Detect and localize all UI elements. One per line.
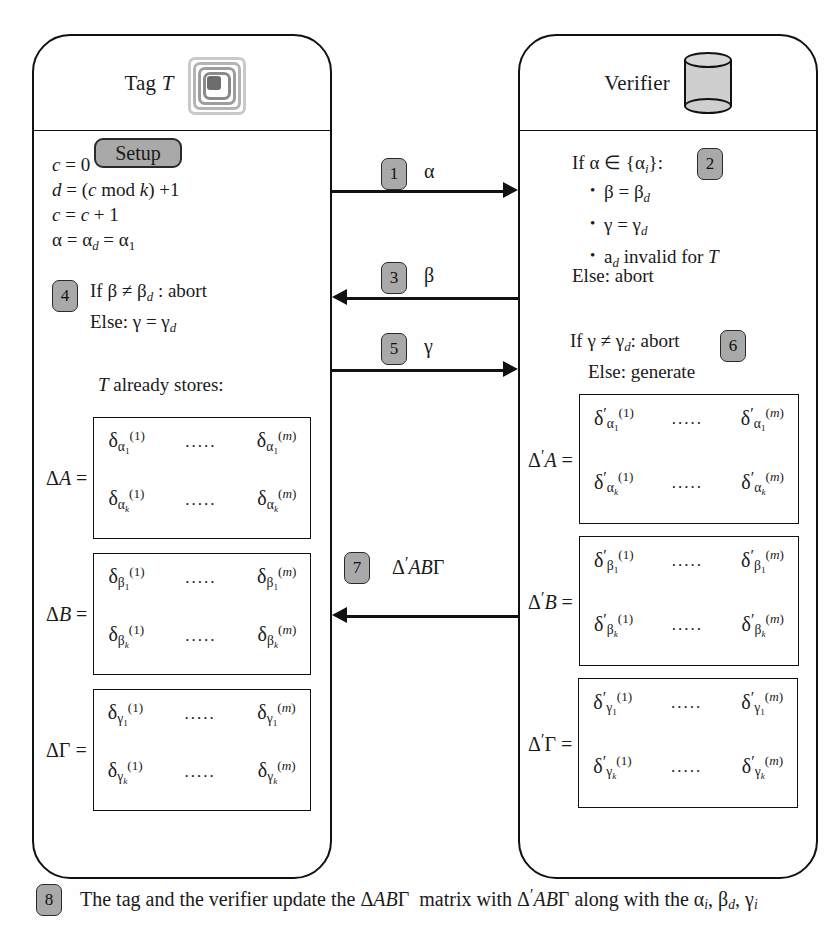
tag-panel-title-text: Tag xyxy=(124,71,156,95)
step-2-badge[interactable]: 2 xyxy=(697,148,723,180)
tag-stores-note: T already stores: xyxy=(98,372,224,397)
equation-c-increment: c = c + 1 xyxy=(52,202,180,227)
step-6-line-2: Else: generate xyxy=(570,359,695,384)
matrix-cell: δ′α1(m) xyxy=(741,405,784,433)
verifier-panel: Verifier If α ∈ {αi}: 2 β = βd γ = γd ad… xyxy=(518,34,818,879)
matrix-cell: δ′βk(1) xyxy=(594,611,633,639)
message-1-label: α xyxy=(424,160,434,183)
matrix-cell: δαk(m) xyxy=(257,486,296,514)
matrix-cell: δ′β1(m) xyxy=(741,547,784,575)
cylinder-bottom xyxy=(684,98,732,114)
message-3-arrowhead xyxy=(332,289,347,305)
cylinder-top xyxy=(684,52,732,68)
matrix-cell: δαk(1) xyxy=(108,486,144,514)
matrix-dots: ..... xyxy=(672,409,703,429)
matrix-cell: δβ1(m) xyxy=(257,564,296,592)
message-1-line xyxy=(332,190,504,193)
step-4-badge[interactable]: 4 xyxy=(52,280,78,312)
message-3-line xyxy=(345,297,518,300)
matrix-delta-b-label: ΔB = xyxy=(46,603,87,626)
matrix-cell: δ′αk(1) xyxy=(594,469,634,497)
matrix-delta-a: ΔA = δα1(1) ..... δα1(m) δαk(1) ..... δα… xyxy=(46,417,311,539)
matrix-dots: ..... xyxy=(672,551,703,571)
matrix-dots: ..... xyxy=(672,473,703,493)
step-2-condition: If α ∈ {αi}: xyxy=(572,150,663,181)
matrix-cell: δ′γ1(m) xyxy=(741,689,783,717)
matrix-cell: δβ1(1) xyxy=(108,564,144,592)
message-3-label: β xyxy=(424,264,434,287)
matrix-delta-prime-b-box: δ′β1(1) ..... δ′β1(m) δ′βk(1) ..... δ′βk… xyxy=(579,536,799,666)
footer-text: The tag and the verifier update the ΔABΓ… xyxy=(80,886,758,913)
equation-c-init: c = 0 xyxy=(52,152,180,177)
matrix-dots: ..... xyxy=(185,704,216,724)
matrix-cell: δ′α1(1) xyxy=(594,405,634,433)
matrix-cell: δ′γk(m) xyxy=(742,753,783,781)
message-5-line xyxy=(332,369,504,372)
message-5-badge[interactable]: 5 xyxy=(381,333,407,365)
message-5-arrowhead xyxy=(503,361,518,377)
footer-row: 8 The tag and the verifier update the ΔA… xyxy=(36,884,758,916)
tag-setup-equations: c = 0 d = (c mod k) +1 c = c + 1 α = αd … xyxy=(52,152,180,258)
equation-d: d = (c mod k) +1 xyxy=(52,177,180,202)
matrix-delta-prime-b-label: Δ′B = xyxy=(528,589,573,614)
matrix-dots: ..... xyxy=(185,762,216,782)
matrix-delta-prime-gamma-label: Δ′Γ = xyxy=(528,731,572,756)
step-6-line-1: If γ ≠ γd: abort xyxy=(570,328,695,359)
matrix-dots: ..... xyxy=(671,757,702,777)
matrix-cell: δ′γk(1) xyxy=(593,753,631,781)
message-5-label: γ xyxy=(424,335,433,358)
matrix-cell: δβk(m) xyxy=(258,622,297,650)
equation-alpha: α = αd = α1 xyxy=(52,227,180,258)
step-8-badge[interactable]: 8 xyxy=(36,884,62,916)
matrix-delta-prime-gamma-box: δ′γ1(1) ..... δ′γ1(m) δ′γk(1) ..... δ′γk… xyxy=(578,678,798,808)
matrix-dots: ..... xyxy=(672,615,703,635)
verifier-panel-title: Verifier xyxy=(604,71,670,96)
tag-panel-title-italic: T xyxy=(162,71,174,95)
matrix-delta-prime-a: Δ′A = δ′α1(1) ..... δ′α1(m) δ′αk(1) ....… xyxy=(528,394,799,524)
matrix-cell: δγ1(1) xyxy=(108,700,143,728)
verifier-panel-body: If α ∈ {αi}: 2 β = βd γ = γd ad invalid … xyxy=(520,132,816,880)
matrix-cell: δα1(m) xyxy=(257,428,297,456)
tag-panel-body: Setup c = 0 d = (c mod k) +1 c = c + 1 α… xyxy=(34,132,330,880)
matrix-cell: δγk(m) xyxy=(258,758,296,786)
rfid-tag-icon xyxy=(188,57,240,109)
matrix-delta-gamma-box: δγ1(1) ..... δγ1(m) δγk(1) ..... δγk(m) xyxy=(93,689,311,811)
message-7-badge[interactable]: 7 xyxy=(344,552,370,584)
step-4-text: If β ≠ βd : abort Else: γ = γd xyxy=(90,278,207,339)
matrix-cell: δ′β1(1) xyxy=(594,547,634,575)
matrix-delta-prime-a-label: Δ′A = xyxy=(528,447,573,472)
matrix-delta-b-box: δβ1(1) ..... δβ1(m) δβk(1) ..... δβk(m) xyxy=(93,553,311,675)
matrix-cell: δ′βk(m) xyxy=(742,611,784,639)
message-1-badge[interactable]: 1 xyxy=(381,158,407,190)
step-2-else: Else: abort xyxy=(572,263,654,288)
matrix-delta-prime-gamma: Δ′Γ = δ′γ1(1) ..... δ′γ1(m) δ′γk(1) ....… xyxy=(528,678,798,808)
matrix-delta-prime-b: Δ′B = δ′β1(1) ..... δ′β1(m) δ′βk(1) ....… xyxy=(528,536,799,666)
matrix-cell: δγk(1) xyxy=(108,758,143,786)
message-7-arrowhead xyxy=(332,607,347,623)
bullet-beta: β = βd xyxy=(588,178,719,211)
matrix-cell: δβk(1) xyxy=(108,622,144,650)
matrix-delta-b: ΔB = δβ1(1) ..... δβ1(m) δβk(1) ..... δβ… xyxy=(46,553,311,675)
matrix-delta-a-label: ΔA = xyxy=(46,467,87,490)
matrix-delta-gamma-label: ΔΓ = xyxy=(46,739,87,762)
message-7-label: Δ′ABΓ xyxy=(392,554,444,579)
step-4-line-2: Else: γ = γd xyxy=(90,309,207,340)
matrix-delta-prime-a-box: δ′α1(1) ..... δ′α1(m) δ′αk(1) ..... δ′αk… xyxy=(579,394,799,524)
matrix-dots: ..... xyxy=(185,432,216,452)
bullet-gamma: γ = γd xyxy=(588,211,719,244)
message-1-arrowhead xyxy=(503,182,518,198)
matrix-dots: ..... xyxy=(671,693,702,713)
matrix-cell: δγ1(m) xyxy=(257,700,295,728)
step-2-bullets: β = βd γ = γd ad invalid for T xyxy=(588,178,719,276)
tag-panel: Tag T Setup c = 0 d = (c mod k) +1 c = c… xyxy=(32,34,332,879)
database-cylinder-icon xyxy=(684,52,732,114)
matrix-delta-a-box: δα1(1) ..... δα1(m) δαk(1) ..... δαk(m) xyxy=(93,417,311,539)
matrix-dots: ..... xyxy=(185,568,216,588)
matrix-cell: δα1(1) xyxy=(108,428,145,456)
tag-panel-header: Tag T xyxy=(34,36,330,131)
message-3-badge[interactable]: 3 xyxy=(381,262,407,294)
step-6-text: If γ ≠ γd: abort Else: generate xyxy=(570,328,695,384)
matrix-dots: ..... xyxy=(185,626,216,646)
step-4-line-1: If β ≠ βd : abort xyxy=(90,278,207,309)
step-6-badge[interactable]: 6 xyxy=(720,330,746,362)
